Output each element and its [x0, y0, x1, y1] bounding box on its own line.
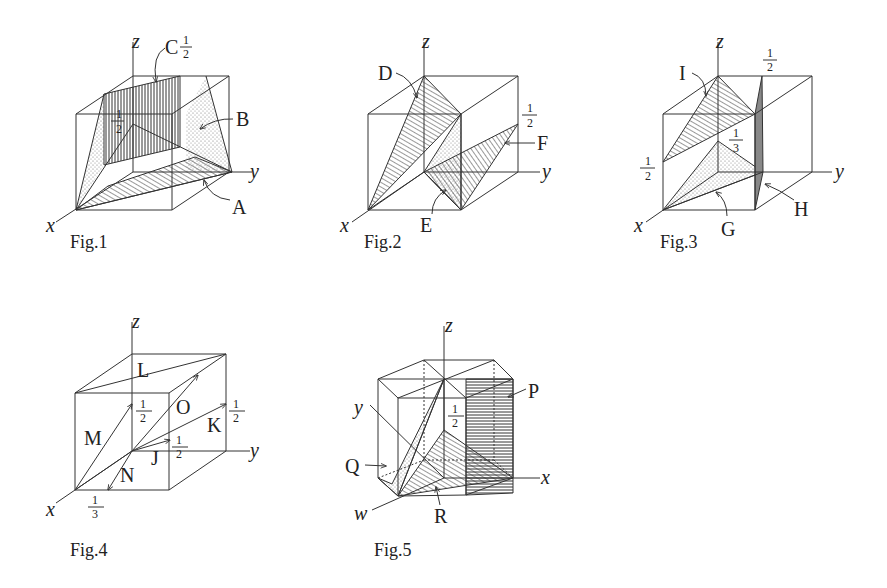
pointer-c — [155, 48, 165, 82]
plane-label-p: P — [528, 380, 539, 402]
plane-label-i: I — [679, 62, 686, 84]
pointer-q — [365, 465, 386, 466]
z-label: z — [131, 30, 140, 52]
pointer-d — [396, 73, 417, 98]
frac-den: 2 — [140, 411, 146, 425]
plane-label-r: R — [434, 505, 448, 527]
plane-label-h: H — [794, 198, 808, 220]
figure-caption: Fig.2 — [364, 232, 402, 252]
y-label: y — [352, 396, 363, 419]
frac-den: 2 — [452, 416, 458, 430]
plane-label-c: C — [165, 36, 178, 58]
y-label: y — [540, 160, 551, 183]
z-label: z — [421, 30, 430, 52]
crystallography-diagram: z y x C 1 2 1 2 B A Fig.1 z y x D 1 — [0, 0, 887, 588]
frac-den: 2 — [527, 116, 533, 130]
frac-num: 1 — [233, 397, 239, 411]
w-label: w — [354, 502, 368, 524]
plane-label-b: B — [236, 108, 249, 130]
frac-num: 1 — [733, 126, 739, 140]
plane-label-f: F — [537, 132, 548, 154]
x-label: x — [540, 466, 550, 488]
plane-label-q: Q — [345, 455, 360, 477]
frac-num: 1 — [140, 397, 146, 411]
x-label: x — [45, 498, 55, 520]
frac-num: 1 — [176, 433, 182, 447]
plane-i — [663, 76, 755, 162]
frac-den: 2 — [183, 47, 189, 61]
frac-den: 3 — [733, 141, 739, 155]
x-axis — [646, 172, 718, 222]
direction-label-l: L — [137, 359, 149, 381]
plane-label-e: E — [420, 214, 432, 236]
figure-5: z x y w P Q R 1 2 Fig.5 — [345, 314, 550, 560]
plane-label-g: G — [721, 218, 735, 240]
figure-4: z y x L M N O K J 1 2 1 2 1 2 1 3 Fig.4 — [45, 310, 259, 560]
x-label: x — [45, 214, 55, 236]
direction-label-k: K — [207, 414, 222, 436]
z-label: z — [715, 30, 724, 52]
pointer-a — [204, 180, 230, 200]
frac-den: 3 — [92, 507, 98, 521]
figure-caption: Fig.3 — [660, 232, 698, 252]
frac-num: 1 — [452, 402, 458, 416]
z-label: z — [131, 310, 140, 332]
frac-num: 1 — [92, 493, 98, 507]
direction-label-j: J — [151, 447, 159, 469]
pointer-g — [716, 192, 727, 216]
frac-den: 2 — [767, 60, 773, 74]
figure-1: z y x C 1 2 1 2 B A Fig.1 — [45, 30, 259, 252]
frac-num: 1 — [116, 107, 122, 121]
frac-num: 1 — [183, 33, 189, 47]
plane-h — [755, 76, 763, 210]
direction-label-o: O — [176, 396, 190, 418]
frac-den: 2 — [645, 169, 651, 183]
y-label: y — [833, 160, 844, 183]
figure-caption: Fig.5 — [374, 540, 412, 560]
direction-label-n: N — [120, 464, 134, 486]
frac-num: 1 — [645, 154, 651, 168]
y-label: y — [248, 439, 259, 462]
figure-2: z y x D 1 2 F E Fig.2 — [339, 30, 551, 252]
direction-l — [75, 354, 226, 393]
x-label: x — [633, 214, 643, 236]
frac-den: 2 — [116, 122, 122, 136]
figure-caption: Fig.4 — [70, 540, 108, 560]
figure-3: z y x I 1 2 1 2 1 3 G H Fig.3 — [633, 30, 844, 252]
frac-num: 1 — [767, 46, 773, 60]
plane-label-d: D — [378, 62, 392, 84]
plane-label-a: A — [232, 196, 247, 218]
y-label: y — [248, 160, 259, 183]
x-label: x — [339, 214, 349, 236]
z-label: z — [444, 314, 453, 336]
frac-den: 2 — [233, 411, 239, 425]
figure-caption: Fig.1 — [70, 232, 108, 252]
frac-num: 1 — [527, 101, 533, 115]
frac-den: 2 — [176, 447, 182, 461]
direction-label-m: M — [84, 427, 102, 449]
